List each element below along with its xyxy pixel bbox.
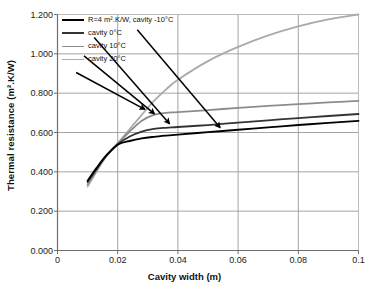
x-axis-tick-labels: 00.020.040.060.080.1	[0, 255, 369, 271]
thermal-resistance-chart: Thermal resistance (m².K/W) 0.0000.2000.…	[0, 0, 369, 292]
legend-item: cavity 20°C	[62, 53, 173, 65]
x-axis-title-text: Cavity width (m)	[148, 271, 221, 282]
legend-color-swatch	[62, 19, 84, 21]
plot-area	[0, 0, 369, 292]
x-axis-tick-label: 0.02	[109, 255, 127, 265]
x-axis-tick-label: 0.08	[290, 255, 308, 265]
x-axis-title: Cavity width (m)	[0, 271, 369, 282]
legend-item-label: R=4 m².K/W, cavity -10°C	[88, 16, 173, 24]
legend-item-label: cavity 20°C	[88, 55, 126, 63]
x-axis-tick-label: 0.1	[352, 255, 365, 265]
legend-color-swatch	[62, 59, 84, 60]
x-axis-tick-label: 0.06	[229, 255, 247, 265]
legend-item: cavity 0°C	[62, 27, 173, 39]
legend-item: cavity 10°C	[62, 40, 173, 52]
x-axis-tick-label: 0	[55, 255, 60, 265]
chart-legend: R=4 m².K/W, cavity -10°Ccavity 0°Ccavity…	[62, 14, 173, 66]
legend-color-swatch	[62, 32, 84, 34]
legend-item-label: cavity 0°C	[88, 29, 122, 37]
legend-color-swatch	[62, 46, 84, 47]
legend-item: R=4 m².K/W, cavity -10°C	[62, 14, 173, 26]
x-axis-tick-label: 0.04	[169, 255, 187, 265]
legend-item-label: cavity 10°C	[88, 42, 126, 50]
